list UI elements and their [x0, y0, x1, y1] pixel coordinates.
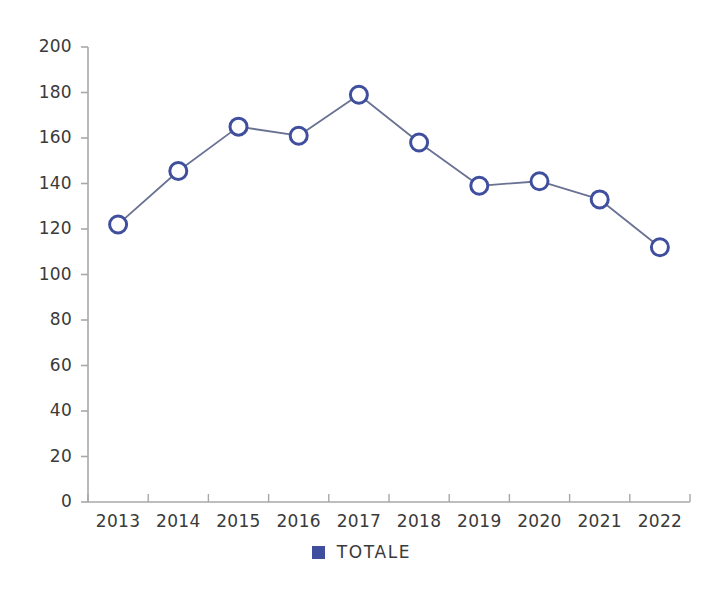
data-point-marker	[531, 173, 548, 190]
data-point-marker	[290, 127, 307, 144]
y-axis-tick-label: 20	[0, 446, 72, 466]
x-axis-tick-label: 2016	[269, 511, 329, 531]
x-axis-tick-label: 2014	[148, 511, 208, 531]
y-axis-tick-label: 100	[0, 264, 72, 284]
legend-swatch-totale	[312, 546, 325, 559]
series-line-totale	[118, 95, 660, 247]
data-point-marker	[230, 118, 247, 135]
x-axis-tick-label: 2018	[389, 511, 449, 531]
y-axis-tick-label: 40	[0, 400, 72, 420]
legend-label-totale: TOTALE	[337, 542, 411, 562]
x-axis-tick-label: 2017	[329, 511, 389, 531]
x-axis-tick-label: 2013	[88, 511, 148, 531]
x-axis-tick-label: 2021	[570, 511, 630, 531]
x-axis-tick-label: 2015	[208, 511, 268, 531]
plot-area	[0, 0, 723, 596]
chart-legend: TOTALE	[0, 542, 723, 562]
y-axis-tick-label: 140	[0, 173, 72, 193]
y-axis-tick-label: 160	[0, 127, 72, 147]
data-point-marker	[591, 191, 608, 208]
data-point-marker	[651, 239, 668, 256]
x-axis-tick-label: 2022	[630, 511, 690, 531]
data-point-marker	[471, 177, 488, 194]
line-chart: 020406080100120140160180200 201320142015…	[0, 0, 723, 596]
data-point-marker	[170, 162, 187, 179]
y-axis-tick-label: 180	[0, 82, 72, 102]
data-point-marker	[110, 216, 127, 233]
x-axis-tick-label: 2020	[509, 511, 569, 531]
x-axis-tick-label: 2019	[449, 511, 509, 531]
y-axis-tick-label: 120	[0, 218, 72, 238]
data-point-marker	[350, 86, 367, 103]
data-point-marker	[411, 134, 428, 151]
y-axis-tick-label: 80	[0, 309, 72, 329]
y-axis-tick-label: 0	[0, 491, 72, 511]
y-axis-tick-label: 200	[0, 36, 72, 56]
y-axis-tick-label: 60	[0, 355, 72, 375]
